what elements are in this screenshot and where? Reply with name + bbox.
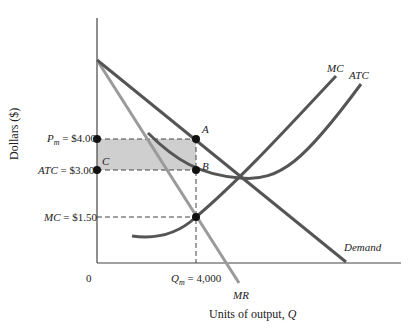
qm-label: Qm = 4,000: [171, 273, 221, 287]
atc-label: ATC = $3.00: [38, 165, 94, 176]
point-mc: [192, 213, 200, 221]
mc-value-label: MC = $1.50: [44, 212, 97, 223]
point-b: [192, 166, 200, 174]
x-axis-var: Q: [288, 307, 297, 321]
pm-var: P: [47, 132, 54, 144]
mc-curve-label: MC: [327, 63, 344, 74]
x-axis-label: Units of output, Q: [209, 308, 296, 320]
mr-curve: [97, 60, 239, 283]
pm-label: Pm = $4.00: [47, 133, 96, 147]
atc-val: = $3.00: [58, 164, 94, 176]
qm-val: = 4,000: [185, 272, 221, 284]
x-axis-text: Units of output,: [209, 307, 288, 321]
point-c-label: C: [102, 156, 109, 167]
qm-var: Q: [171, 272, 179, 284]
point-a: [192, 135, 200, 143]
pm-val: = $4.00: [60, 132, 96, 144]
point-b-label: B: [202, 161, 209, 172]
mr-curve-label: MR: [233, 290, 249, 301]
mc-var: MC: [44, 211, 61, 223]
y-axis-label: Dollars ($): [8, 108, 20, 160]
mc-val: = $1.50: [61, 211, 97, 223]
origin-label: 0: [86, 273, 92, 284]
monopoly-profit-chart: Dollars ($) Pm = $4.00 ATC = $3.00 MC = …: [0, 0, 418, 329]
demand-curve-label: Demand: [344, 242, 381, 253]
point-a-label: A: [202, 124, 209, 135]
profit-area: [97, 139, 196, 170]
atc-curve-label: ATC: [349, 70, 369, 81]
atc-var: ATC: [38, 164, 58, 176]
